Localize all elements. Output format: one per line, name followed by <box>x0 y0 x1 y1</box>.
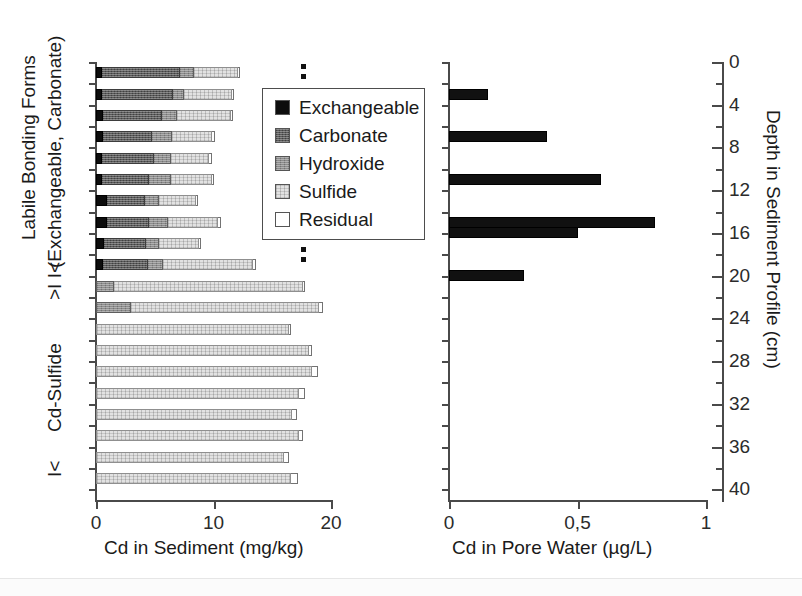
depth-minor-tick <box>716 83 723 85</box>
porewater-bar <box>449 227 578 238</box>
depth-tick-label: 28 <box>729 350 750 372</box>
right-y-tick <box>442 83 449 85</box>
porewater-bar <box>449 174 601 185</box>
depth-major-tick <box>712 361 723 363</box>
depth-major-tick <box>712 404 723 406</box>
depth-tick-label: 0 <box>729 51 740 73</box>
right-y-tick <box>442 340 449 342</box>
depth-axis-title: Depth in Sediment Profile (cm) <box>762 110 784 369</box>
right-x-tick-label: 0 <box>444 512 455 534</box>
depth-tick-label: 32 <box>729 393 750 415</box>
depth-minor-tick <box>716 468 723 470</box>
right-y-tick <box>442 361 449 363</box>
porewater-bar <box>449 89 488 100</box>
right-y-tick <box>442 425 449 427</box>
page-edge-artifact <box>0 578 802 596</box>
porewater-bar <box>449 270 524 281</box>
right-x-tick <box>578 500 580 509</box>
right-y-tick <box>442 489 449 491</box>
right-y-tick <box>442 382 449 384</box>
right-y-tick <box>442 468 449 470</box>
right-y-tick <box>442 62 449 64</box>
right-y-tick <box>442 447 449 449</box>
depth-tick-label: 40 <box>729 478 750 500</box>
depth-tick-label: 36 <box>729 436 750 458</box>
porewater-bar <box>449 131 547 142</box>
right-y-tick <box>442 126 449 128</box>
porewater-panel: 00,51 Cd in Pore Water (µg/L) 0481216202… <box>0 0 802 596</box>
depth-major-tick <box>712 276 723 278</box>
depth-minor-tick <box>716 340 723 342</box>
depth-tick-label: 8 <box>729 136 740 158</box>
right-y-tick <box>442 318 449 320</box>
depth-minor-tick <box>716 126 723 128</box>
porewater-bar <box>449 217 655 228</box>
depth-major-tick <box>712 447 723 449</box>
depth-major-tick <box>712 190 723 192</box>
depth-minor-tick <box>716 425 723 427</box>
depth-minor-tick <box>716 254 723 256</box>
depth-major-tick <box>712 62 723 64</box>
right-y-tick <box>442 233 449 235</box>
depth-minor-tick <box>716 382 723 384</box>
right-x-tick <box>449 500 451 509</box>
right-y-tick <box>442 212 449 214</box>
right-x-tick-label: 0,5 <box>564 512 590 534</box>
right-y-tick <box>442 276 449 278</box>
right-y-tick <box>442 147 449 149</box>
depth-major-tick <box>712 318 723 320</box>
right-y-tick <box>442 254 449 256</box>
depth-major-tick <box>712 105 723 107</box>
right-y-tick <box>442 190 449 192</box>
depth-tick-label: 20 <box>729 265 750 287</box>
depth-minor-tick <box>716 212 723 214</box>
depth-tick-label: 24 <box>729 307 750 329</box>
depth-minor-tick <box>716 297 723 299</box>
figure-root: 01020 Cd in Sediment (mg/kg) Labile Bond… <box>0 0 802 596</box>
depth-tick-label: 12 <box>729 179 750 201</box>
depth-tick-label: 16 <box>729 222 750 244</box>
depth-major-tick <box>712 233 723 235</box>
right-x-tick <box>706 500 708 509</box>
right-y-tick <box>442 404 449 406</box>
right-y-tick <box>442 297 449 299</box>
right-y-tick <box>442 105 449 107</box>
right-x-tick-label: 1 <box>701 512 712 534</box>
right-x-axis-title: Cd in Pore Water (µg/L) <box>452 537 652 559</box>
right-y-tick <box>442 169 449 171</box>
depth-tick-label: 4 <box>729 94 740 116</box>
depth-major-tick <box>712 489 723 491</box>
depth-major-tick <box>712 147 723 149</box>
depth-minor-tick <box>716 169 723 171</box>
